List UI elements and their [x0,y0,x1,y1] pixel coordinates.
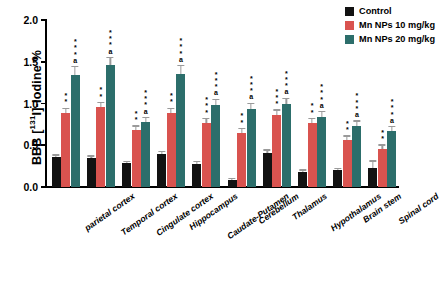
error-bar [241,128,242,133]
bar: ** [96,107,105,187]
error-bar-cap [334,168,341,169]
error-bar [100,102,101,107]
bar [263,153,272,187]
error-bar-cap [353,120,360,121]
bar [333,170,342,187]
legend-swatch [345,21,354,30]
bar: ***a [387,131,396,187]
error-bar-cap [107,57,114,58]
error-bar [215,99,216,106]
error-bar [356,120,357,126]
bar [157,154,166,187]
y-axis-title-superscript: 131 [28,115,37,129]
error-bar-cap [88,155,95,156]
legend-label: Control [359,6,392,16]
bar-group: *****a [157,20,185,187]
bar: ** [61,113,70,187]
y-tick-label: 0.0 [4,182,38,193]
legend-label: Mn NPs 20 mg/kg [359,34,435,44]
error-bar [276,109,277,115]
error-bar [145,117,146,122]
error-bar-cap [388,126,395,127]
legend-item[interactable]: Control [345,6,435,16]
error-bar-cap [97,102,104,103]
error-bar [196,161,197,164]
significance-marker: ** [100,87,102,99]
error-bar-cap [212,99,219,100]
significance-marker: *** [276,89,278,108]
bar: ***a [282,104,291,187]
bar [122,163,131,187]
error-bar-cap [299,169,306,170]
bar: ***a [247,109,256,187]
error-bar [206,118,207,123]
error-bar-cap [379,144,386,145]
error-bar [347,135,348,140]
bar: ***a [211,105,220,187]
significance-marker: ***a [249,76,253,101]
error-bar-cap [318,111,325,112]
bar [192,164,201,187]
bar [87,158,96,187]
significance-marker: ** [240,113,242,125]
legend-item[interactable]: Mn NPs 20 mg/kg [345,34,435,44]
error-bar-cap [168,108,175,109]
error-bar-cap [228,178,235,179]
legend: ControlMn NPs 10 mg/kgMn NPs 20 mg/kg [345,6,435,48]
bar: ***a [317,117,326,187]
significance-marker: ***a [73,39,77,64]
significance-marker: ***a [144,90,148,115]
error-bar [372,160,373,168]
error-bar-cap [308,118,315,119]
error-bar-cap [344,135,351,136]
error-bar-cap [203,118,210,119]
error-bar [286,98,287,105]
significance-marker: ***a [285,71,289,96]
bar: ***a [176,74,185,187]
error-bar [180,65,181,74]
error-bar-cap [283,98,290,99]
error-bar-cap [238,128,245,129]
significance-marker: ** [64,93,66,105]
error-bar [231,178,232,180]
significance-marker: ***a [390,99,394,124]
error-bar [135,125,136,130]
error-bar [161,151,162,154]
legend-label: Mn NPs 10 mg/kg [359,20,435,30]
bar-group: *****a [228,20,256,187]
significance-marker: ** [135,111,137,123]
y-tick-label: 0.5 [4,140,38,151]
bar: ** [237,133,246,187]
y-tick-label: 1.0 [4,99,38,110]
legend-swatch [345,35,354,44]
bar [228,180,237,188]
error-bar [382,144,383,149]
error-bar [337,168,338,171]
bar [298,172,307,187]
error-bar-cap [71,66,78,67]
significance-marker: ***a [320,84,324,109]
error-bar-cap [123,161,130,162]
error-bar-cap [142,117,149,118]
bar-group: *****a [52,20,80,187]
bar: *** [202,123,211,187]
bar [368,168,377,187]
error-bar [302,169,303,172]
error-bar [267,149,268,152]
error-bar-cap [264,149,271,150]
error-bar-cap [62,108,69,109]
chart-figure: BBB [131I]-Iodine % 0.00.51.01.52.0 ****… [0,0,442,283]
bar: ** [308,123,317,187]
legend-item[interactable]: Mn NPs 10 mg/kg [345,20,435,30]
significance-marker: *** [205,97,207,116]
error-bar [250,103,251,110]
error-bar [311,118,312,123]
significance-marker: ***a [214,72,218,97]
significance-marker: ** [381,130,383,142]
bar-group: *****a [298,20,326,187]
error-bar [55,154,56,157]
error-bar-cap [158,151,165,152]
significance-marker: ***a [355,93,359,118]
significance-marker: ** [170,93,172,105]
error-bar [126,161,127,163]
